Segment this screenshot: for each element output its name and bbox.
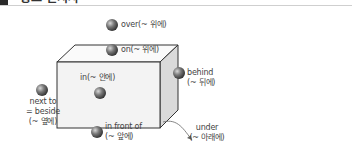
ball-on-icon [106,44,118,56]
label-next-to: next to = beside (~ 옆에) [20,97,66,127]
ball-behind-icon [173,67,185,79]
label-in: in(~ 안에) [80,73,115,83]
ball-next-to-icon [36,84,48,96]
ball-over-icon [106,19,118,31]
box [57,45,178,128]
ball-in-icon [94,87,106,99]
label-on: on(~ 위에) [121,45,159,55]
box-top-face [57,45,178,62]
label-in-front-of: in front of (~ 앞에) [105,122,142,142]
label-over: over(~ 위에) [121,20,166,30]
ball-in-front-of-icon [91,126,103,138]
box-front-face [57,62,160,128]
label-behind: behind (~ 뒤에) [187,68,215,88]
prepositions-diagram [0,0,360,153]
label-under: under (~ 아래에) [182,123,232,143]
